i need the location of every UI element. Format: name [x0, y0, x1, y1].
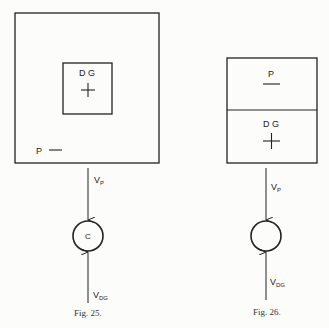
plus-sign-icon: [263, 133, 280, 149]
p-label: P: [36, 146, 42, 156]
vdg-label: VDG: [270, 277, 285, 288]
vdg-label: VDG: [93, 290, 108, 301]
vp-label: VP: [94, 175, 104, 186]
circle-label: C: [85, 232, 91, 241]
vp-label: VP: [271, 182, 281, 193]
figure-caption: Fig. 26.: [253, 307, 281, 317]
figure-caption: Fig. 25.: [74, 308, 102, 318]
figure-25: D G P VP C VDG Fig. 25.: [15, 13, 159, 318]
dg-label: D G: [79, 68, 95, 78]
comparator-circle: [251, 221, 281, 251]
p-label: P: [268, 69, 274, 79]
outer-box: [15, 13, 159, 163]
figure-26: P D G VP VDG Fig. 26.: [227, 58, 317, 317]
plus-sign-icon: [81, 83, 95, 97]
dg-label: D G: [263, 119, 279, 129]
diagram-canvas: D G P VP C VDG Fig. 25. P D G VP VDG Fig…: [0, 0, 329, 328]
